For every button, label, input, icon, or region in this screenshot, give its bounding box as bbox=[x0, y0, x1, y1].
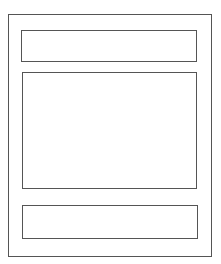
footer-placeholder bbox=[22, 205, 198, 239]
header-placeholder bbox=[21, 30, 197, 62]
content-placeholder bbox=[22, 72, 197, 189]
